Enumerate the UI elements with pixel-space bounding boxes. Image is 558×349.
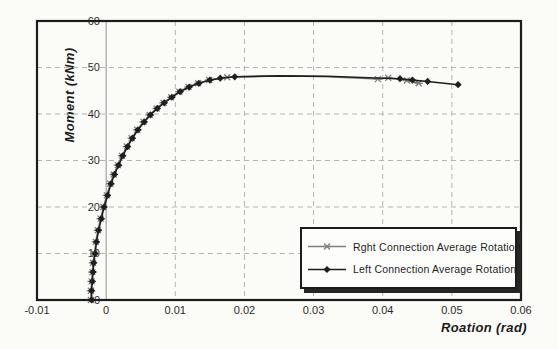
legend-item-right-connection: Rght Connection Average Rotation (308, 240, 509, 253)
x-tick-label: 0.02 (216, 304, 272, 317)
diamond-marker-sample-icon (308, 263, 346, 276)
moment-rotation-chart: Moment (kNm) 0102030405060 -0.0100.010.0… (0, 0, 558, 349)
legend-label-left-connection: Left Connection Average Rotation (353, 263, 516, 275)
x-tick-label: 0.01 (147, 304, 203, 317)
y-tick-label: 30 (56, 154, 100, 167)
legend: Rght Connection Average Rotation Left Co… (300, 227, 517, 289)
x-axis-title: Roation (rad) (441, 320, 527, 335)
x-tick-label: 0.04 (355, 304, 411, 317)
y-tick-label: 10 (56, 247, 100, 260)
x-tick-label: 0 (78, 304, 134, 317)
y-tick-label: 50 (56, 61, 100, 74)
x-tick-label: -0.01 (9, 304, 65, 317)
y-tick-label: 20 (56, 201, 100, 214)
legend-label-right-connection: Rght Connection Average Rotation (353, 241, 521, 253)
x-tick-label: 0.06 (493, 304, 549, 317)
x-tick-label: 0.03 (286, 304, 342, 317)
y-tick-label: 60 (56, 15, 100, 28)
star-marker-sample-icon (308, 240, 346, 253)
y-tick-label: 40 (56, 108, 100, 121)
legend-item-left-connection: Left Connection Average Rotation (308, 263, 509, 276)
x-tick-label: 0.05 (424, 304, 480, 317)
